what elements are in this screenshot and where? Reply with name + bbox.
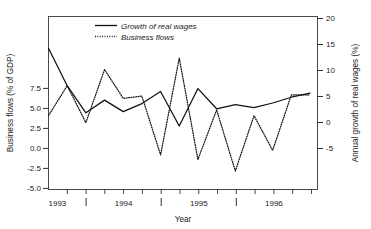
right-tick-label: 0 [326,118,331,127]
right-axis-tick-labels: 20 15 10 5 0 -5 [326,14,335,153]
right-tick-label: 10 [326,66,335,75]
left-axis-ticks [43,88,49,188]
right-tick-label: 5 [326,92,331,101]
xtick-label-1996: 1996 [265,199,283,208]
y-axis-title-left: Business flows (% of GDP) [6,54,15,153]
xtick-label-1994: 1994 [115,199,133,208]
legend-label-business-flows: Business flows [121,33,174,42]
left-axis-tick-labels: 7.5 5.0 2.5 0.0 -2.5 -5.0 [27,84,41,193]
series-line-business-flows [49,58,311,171]
chart-legend: Growth of real wages Business flows [95,22,197,42]
left-tick-label: 5.0 [30,104,42,113]
left-tick-label: 2.5 [30,124,42,133]
right-tick-label: -5 [326,144,334,153]
left-tick-label: -5.0 [27,184,41,193]
y-axis-title-right: Annual growth of real wages (%) [351,44,360,163]
data-series-group [49,48,311,171]
x-axis-title: Year [175,215,192,224]
left-tick-label: -2.5 [27,164,41,173]
left-tick-label: 0.0 [30,144,42,153]
bottom-axis-major-ticks [86,198,236,206]
plot-frame [49,17,318,190]
legend-label-growth-of-real-wages: Growth of real wages [121,22,197,31]
xtick-label-1993: 1993 [49,199,67,208]
chart-figure: 7.5 5.0 2.5 0.0 -2.5 -5.0 20 15 10 5 0 -… [0,0,371,229]
bottom-axis-minor-ticks [67,190,311,195]
bottom-axis-tick-labels: 1993 1994 1995 1996 [49,199,284,208]
xtick-label-1995: 1995 [190,199,208,208]
right-axis-ticks [318,19,324,149]
right-tick-label: 20 [326,14,335,23]
right-tick-label: 15 [326,40,335,49]
chart-canvas: 7.5 5.0 2.5 0.0 -2.5 -5.0 20 15 10 5 0 -… [0,0,371,229]
left-tick-label: 7.5 [30,84,42,93]
